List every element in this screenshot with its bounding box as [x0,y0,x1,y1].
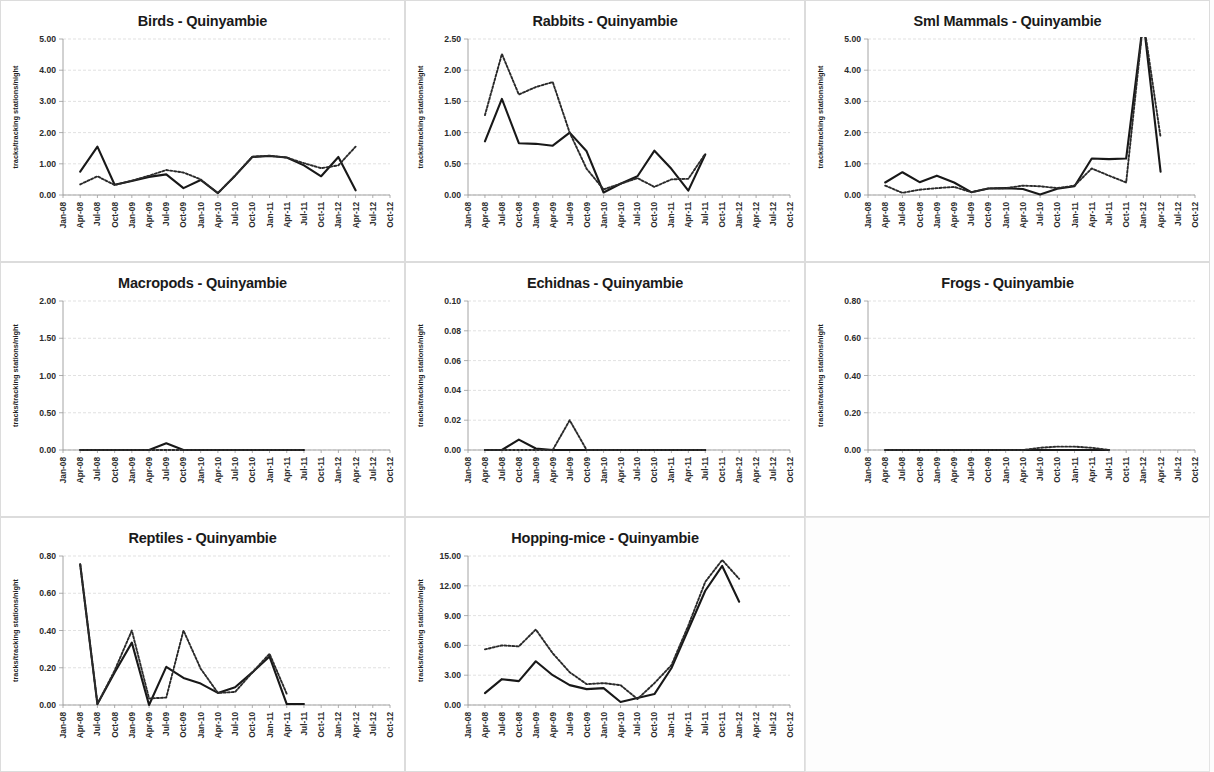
x-tick-label: Jan-11 [265,202,275,228]
y-tick-label: 0.02 [444,415,461,425]
x-tick-label: Apr-09 [548,202,558,229]
x-tick-label: Apr-09 [949,457,959,484]
chart-title-sml-mammals: Sml Mammals - Quinyambie [806,13,1209,29]
x-tick-label: Apr-08 [880,457,890,484]
x-tick-label: Oct-11 [316,202,326,228]
y-tick-label: 0.10 [444,296,461,306]
x-tick-label: Jan-11 [1070,202,1080,228]
x-tick-label: Jul-11 [299,457,309,481]
x-tick-label: Jul-10 [230,202,240,226]
data-series-dotted [80,147,355,193]
chart-panel-birds[interactable]: Birds - Quinyambietracks/tracking statio… [0,0,405,262]
x-tick-label: Jan-12 [734,202,744,229]
x-tick-label: Apr-10 [213,202,223,229]
data-series-solid [80,564,304,705]
data-series-dotted [885,29,1160,193]
x-tick-label: Apr-10 [616,202,626,229]
x-tick-label: Apr-08 [480,457,490,484]
x-tick-label: Apr-08 [75,457,85,484]
x-tick-label: Apr-12 [751,202,761,229]
x-tick-label: Jul-12 [368,457,378,481]
chart-plot-sml-mammals: tracks/tracking stations/night0.001.002.… [806,29,1207,255]
empty-panel [805,517,1210,772]
x-tick-label: Oct-10 [247,202,257,228]
x-tick-label: Jul-08 [897,457,907,481]
x-tick-label: Apr-12 [351,202,361,229]
x-tick-label: Apr-10 [213,712,223,739]
charts-sheet: Birds - Quinyambietracks/tracking statio… [0,0,1214,772]
chart-panel-reptiles[interactable]: Reptiles - Quinyambietracks/tracking sta… [0,517,405,772]
y-tick-label: 3.00 [844,96,861,106]
x-tick-label: Jan-08 [58,457,68,484]
chart-panel-echidnas[interactable]: Echidnas - Quinyambietracks/tracking sta… [405,262,805,517]
x-tick-label: Oct-11 [316,457,326,483]
y-tick-label: 0.00 [444,700,461,710]
x-tick-label: Jul-08 [497,202,507,226]
x-tick-label: Oct-11 [1121,457,1131,483]
data-series-dotted [485,420,705,450]
data-series-solid [485,440,705,450]
x-tick-label: Jul-12 [768,712,778,736]
chart-panel-frogs[interactable]: Frogs - Quinyambietracks/tracking statio… [805,262,1210,517]
y-tick-label: 0.00 [39,445,56,455]
x-tick-label: Oct-09 [178,712,188,738]
x-tick-label: Apr-11 [683,457,693,483]
data-series-solid [885,29,1160,194]
x-tick-label: Apr-08 [75,202,85,229]
x-tick-label: Jul-12 [1173,457,1183,481]
x-tick-label: Jul-09 [966,202,976,226]
x-tick-label: Jul-10 [230,712,240,736]
chart-panel-sml-mammals[interactable]: Sml Mammals - Quinyambietracks/tracking … [805,0,1210,262]
chart-panel-macropods[interactable]: Macropods - Quinyambietracks/tracking st… [0,262,405,517]
y-tick-label: 1.00 [444,128,461,138]
chart-title-birds: Birds - Quinyambie [1,13,404,29]
x-tick-label: Jan-11 [265,712,275,738]
y-tick-label: 2.00 [844,128,861,138]
x-tick-label: Oct-08 [110,202,120,228]
x-tick-label: Oct-09 [983,202,993,228]
y-tick-label: 9.00 [444,611,461,621]
y-tick-label: 2.00 [39,128,56,138]
chart-panel-rabbits[interactable]: Rabbits - Quinyambietracks/tracking stat… [405,0,805,262]
x-tick-label: Oct-10 [247,457,257,483]
x-tick-label: Jul-09 [161,202,171,226]
y-tick-label: 0.80 [844,296,861,306]
y-tick-label: 0.20 [844,408,861,418]
chart-plot-rabbits: tracks/tracking stations/night0.000.501.… [406,29,802,255]
x-tick-label: Jan-10 [1001,457,1011,484]
x-tick-label: Jan-10 [599,457,609,484]
y-tick-label: 1.00 [39,371,56,381]
x-tick-label: Jul-10 [1035,202,1045,226]
x-tick-label: Jan-08 [863,457,873,484]
y-tick-label: 0.60 [39,588,56,598]
series-group [80,564,304,705]
chart-panel-hopping-mice[interactable]: Hopping-mice - Quinyambietracks/tracking… [405,517,805,772]
y-tick-label: 0.80 [39,551,56,561]
x-tick-label: Oct-08 [110,712,120,738]
x-tick-label: Jul-10 [632,202,642,226]
x-tick-label: Jul-10 [230,457,240,481]
y-axis-label: tracks/tracking stations/night [11,578,20,682]
x-tick-label: Jan-08 [58,202,68,229]
x-tick-label: Jan-10 [599,202,609,229]
x-tick-label: Jul-10 [632,457,642,481]
x-tick-label: Jan-08 [58,712,68,739]
x-tick-label: Oct-08 [514,202,524,228]
x-tick-label: Jan-08 [463,712,473,739]
y-axis-label: tracks/tracking stations/night [816,65,825,169]
x-tick-label: Oct-09 [178,202,188,228]
x-tick-label: Jan-11 [666,457,676,483]
y-tick-label: 2.50 [444,34,461,44]
x-tick-label: Apr-08 [75,712,85,739]
chart-title-reptiles: Reptiles - Quinyambie [1,530,404,546]
x-tick-label: Apr-11 [1087,457,1097,483]
x-tick-label: Jul-11 [1104,202,1114,226]
y-tick-label: 15.00 [439,551,461,561]
x-tick-label: Oct-09 [582,202,592,228]
x-tick-label: Jan-08 [463,202,473,229]
x-tick-label: Oct-11 [717,202,727,228]
x-tick-label: Apr-11 [282,457,292,483]
y-axis-label: tracks/tracking stations/night [11,65,20,169]
x-tick-label: Jan-08 [863,202,873,229]
y-tick-label: 0.40 [39,626,56,636]
